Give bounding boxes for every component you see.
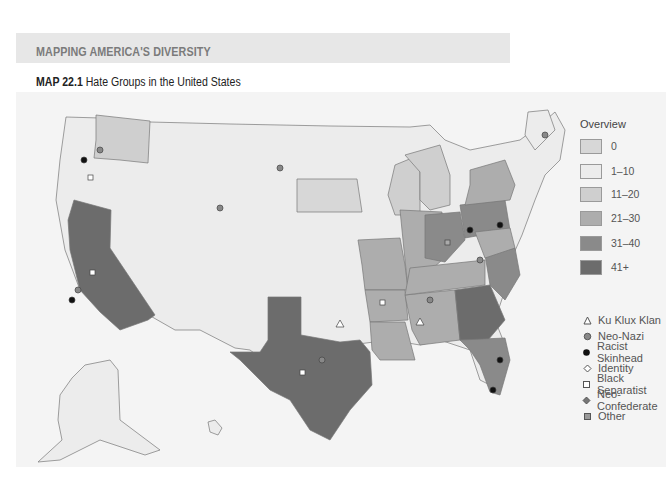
- legend-range-21-30: 21–30: [580, 210, 640, 226]
- square-outline-icon: [582, 379, 591, 389]
- legend-range-label: 11–20: [611, 188, 639, 200]
- legend-symbol-neo-confederate: Neo-Confederate: [582, 393, 666, 407]
- triangle-outline-icon: [582, 315, 592, 325]
- gray-square-icon: [582, 411, 592, 421]
- legend-range-0: 0: [580, 138, 617, 154]
- state-florida: [460, 338, 510, 395]
- legend-range-41-plus: 41+: [580, 259, 629, 275]
- legend-swatch: [580, 187, 602, 202]
- diamond-outline-icon: [582, 363, 592, 373]
- gray-diamond-icon: [582, 395, 591, 405]
- state-washington: [94, 115, 150, 163]
- us-map: [0, 0, 666, 477]
- legend-symbol-label: Ku Klux Klan: [598, 314, 661, 326]
- legend-symbol-other: Other: [582, 409, 626, 423]
- state-south-dakota: [297, 179, 362, 212]
- legend-range-label: 41+: [611, 261, 629, 273]
- legend-range-1-10: 1–10: [580, 163, 634, 179]
- legend-symbol-label: Other: [598, 410, 626, 422]
- legend-range-31-40: 31–40: [580, 235, 640, 251]
- state-arkansas: [365, 290, 408, 322]
- legend-range-label: 1–10: [611, 165, 634, 177]
- legend-range-label: 31–40: [611, 237, 640, 249]
- black-circle-icon: [582, 347, 591, 357]
- legend-swatch: [580, 260, 602, 275]
- legend-swatch: [580, 211, 602, 226]
- legend-range-label: 21–30: [611, 212, 640, 224]
- legend-range-label: 0: [611, 140, 617, 152]
- legend-range-11-20: 11–20: [580, 186, 639, 202]
- state-missouri: [358, 238, 408, 290]
- state-hawaii: [208, 420, 222, 435]
- legend-swatch: [580, 236, 602, 251]
- legend-symbol-kkk: Ku Klux Klan: [582, 313, 661, 327]
- legend-symbol-racist-skinhead: Racist Skinhead: [582, 345, 666, 359]
- legend-title: Overview: [580, 118, 626, 130]
- state-alaska: [38, 360, 160, 462]
- gray-circle-icon: [582, 331, 592, 341]
- legend-swatch: [580, 139, 602, 154]
- legend-swatch: [580, 164, 602, 179]
